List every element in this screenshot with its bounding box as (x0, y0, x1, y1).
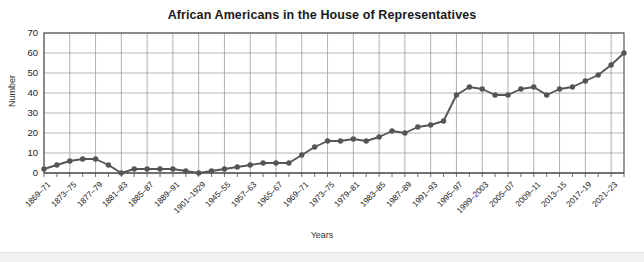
y-tick-label: 0 (14, 167, 38, 178)
data-point (157, 166, 162, 171)
data-point (132, 166, 137, 171)
data-point (54, 162, 59, 167)
plot-border (44, 33, 624, 173)
y-tick-label: 30 (14, 107, 38, 118)
data-point (144, 166, 149, 171)
data-point (505, 92, 510, 97)
data-point (235, 164, 240, 169)
y-tick-label: 70 (14, 27, 38, 38)
data-point (196, 170, 201, 175)
data-point (518, 86, 523, 91)
chart-figure: African Americans in the House of Repres… (0, 0, 644, 262)
data-point (596, 72, 601, 77)
y-tick-label: 60 (14, 47, 38, 58)
y-tick-label: 20 (14, 127, 38, 138)
data-point (299, 152, 304, 157)
data-point (402, 130, 407, 135)
data-point (222, 166, 227, 171)
data-point (415, 124, 420, 129)
data-point (621, 50, 626, 55)
data-point (67, 158, 72, 163)
data-point (376, 134, 381, 139)
data-point (570, 84, 575, 89)
data-point (389, 128, 394, 133)
data-point (608, 62, 613, 67)
data-point (467, 84, 472, 89)
data-point (531, 84, 536, 89)
data-point (583, 78, 588, 83)
y-tick-label: 40 (14, 87, 38, 98)
data-point (248, 162, 253, 167)
data-point (183, 168, 188, 173)
data-point (338, 138, 343, 143)
data-point (41, 166, 46, 171)
data-point (557, 86, 562, 91)
data-point (492, 92, 497, 97)
data-point (351, 136, 356, 141)
data-point (544, 92, 549, 97)
data-point (260, 160, 265, 165)
data-point (480, 86, 485, 91)
y-tick-label: 10 (14, 147, 38, 158)
data-point (106, 162, 111, 167)
data-point (170, 166, 175, 171)
y-tick-label: 50 (14, 67, 38, 78)
data-point (80, 156, 85, 161)
data-point (428, 122, 433, 127)
footer-strip (0, 252, 644, 262)
data-point (273, 160, 278, 165)
data-point (454, 92, 459, 97)
data-point (119, 170, 124, 175)
data-point (441, 118, 446, 123)
data-point (286, 160, 291, 165)
data-point (325, 138, 330, 143)
data-point (209, 168, 214, 173)
data-point (364, 138, 369, 143)
data-point (312, 144, 317, 149)
plot-area: Number Years 0102030405060701869–711873–… (0, 0, 644, 262)
data-point (93, 156, 98, 161)
